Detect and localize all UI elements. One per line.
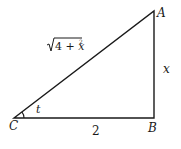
radicand-exponent: 2 — [79, 38, 83, 45]
angle-label-t: t — [36, 103, 41, 116]
vertex-label-a: A — [156, 6, 166, 20]
vertex-label-b: B — [147, 121, 157, 135]
right-triangle — [14, 11, 154, 118]
side-label-x: x — [163, 62, 170, 76]
vertex-label-c: C — [9, 119, 18, 133]
triangle-diagram: A B C x 2 t 4 + x 2 — [0, 0, 181, 149]
hypotenuse-label: 4 + x 2 — [47, 38, 85, 53]
side-label-2: 2 — [92, 124, 100, 138]
angle-arc-t — [22, 112, 24, 118]
